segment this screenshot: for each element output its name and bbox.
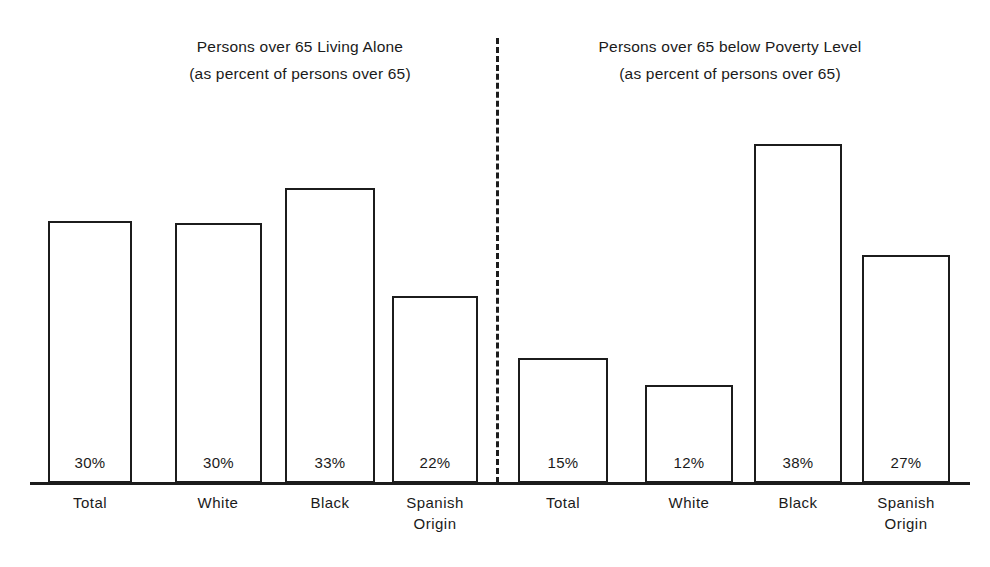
bar-left-total: 30% — [48, 221, 132, 483]
category-label-right-white: White — [639, 492, 739, 513]
category-label-right-white-line-1: White — [639, 492, 739, 513]
bar-value-right-spanish-origin: 27% — [864, 454, 948, 471]
bar-value-right-black: 38% — [756, 454, 840, 471]
bar-left-white: 30% — [175, 223, 262, 483]
category-label-right-black: Black — [748, 492, 848, 513]
bar-chart-figure: Persons over 65 Living Alone (as percent… — [0, 0, 990, 567]
bar-right-spanish-origin: 27% — [862, 255, 950, 483]
category-label-left-spanish-origin: Spanish Origin — [385, 492, 485, 534]
bar-value-left-total: 30% — [50, 454, 130, 471]
category-label-left-black-line-1: Black — [280, 492, 380, 513]
category-label-left-total-line-1: Total — [40, 492, 140, 513]
bar-value-left-white: 30% — [177, 454, 260, 471]
bar-value-right-total: 15% — [520, 454, 606, 471]
bar-right-total: 15% — [518, 358, 608, 483]
category-label-right-spanish-origin-line-2: Origin — [856, 513, 956, 534]
category-label-right-spanish-origin-line-1: Spanish — [856, 492, 956, 513]
category-label-right-total: Total — [513, 492, 613, 513]
category-label-left-black: Black — [280, 492, 380, 513]
category-label-left-spanish-origin-line-1: Spanish — [385, 492, 485, 513]
bar-value-left-spanish-origin: 22% — [394, 454, 476, 471]
bar-left-black: 33% — [285, 188, 375, 483]
category-label-right-total-line-1: Total — [513, 492, 613, 513]
bar-value-right-white: 12% — [647, 454, 731, 471]
category-label-left-white: White — [168, 492, 268, 513]
category-label-left-white-line-1: White — [168, 492, 268, 513]
panel-divider-dashed — [496, 38, 499, 483]
category-label-left-total: Total — [40, 492, 140, 513]
bar-right-white: 12% — [645, 385, 733, 483]
baseline-axis — [30, 482, 970, 485]
bar-value-left-black: 33% — [287, 454, 373, 471]
category-label-right-black-line-1: Black — [748, 492, 848, 513]
category-label-left-spanish-origin-line-2: Origin — [385, 513, 485, 534]
bar-left-spanish-origin: 22% — [392, 296, 478, 483]
bar-right-black: 38% — [754, 144, 842, 483]
plot-area: 30% 30% 33% 22% 15% 12% 38% 27% — [0, 0, 990, 567]
category-label-right-spanish-origin: Spanish Origin — [856, 492, 956, 534]
